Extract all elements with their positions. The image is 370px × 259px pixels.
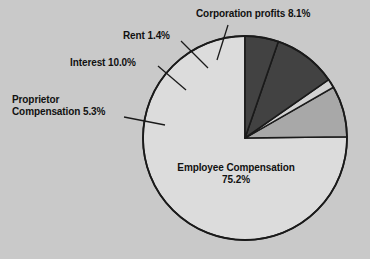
label-employee-compensation: Employee Compensation 75.2% — [158, 162, 314, 185]
label-corporation-profits: Corporation profits 8.1% — [196, 8, 310, 20]
pie-chart: Corporation profits 8.1% Rent 1.4% Inter… — [0, 0, 370, 259]
label-employee-line2: 75.2% — [158, 174, 314, 186]
label-interest-text: Interest 10.0% — [70, 57, 136, 68]
label-proprietor-line2: Compensation 5.3% — [12, 106, 105, 118]
label-rent: Rent 1.4% — [123, 30, 170, 42]
label-proprietor-line1: Proprietor — [12, 94, 105, 106]
label-rent-text: Rent 1.4% — [123, 30, 170, 41]
label-interest: Interest 10.0% — [70, 57, 136, 69]
label-corporation-profits-text: Corporation profits 8.1% — [196, 8, 310, 19]
pie-chart-canvas — [0, 0, 370, 259]
label-proprietor-compensation: Proprietor Compensation 5.3% — [12, 94, 105, 117]
label-employee-line1: Employee Compensation — [158, 162, 314, 174]
